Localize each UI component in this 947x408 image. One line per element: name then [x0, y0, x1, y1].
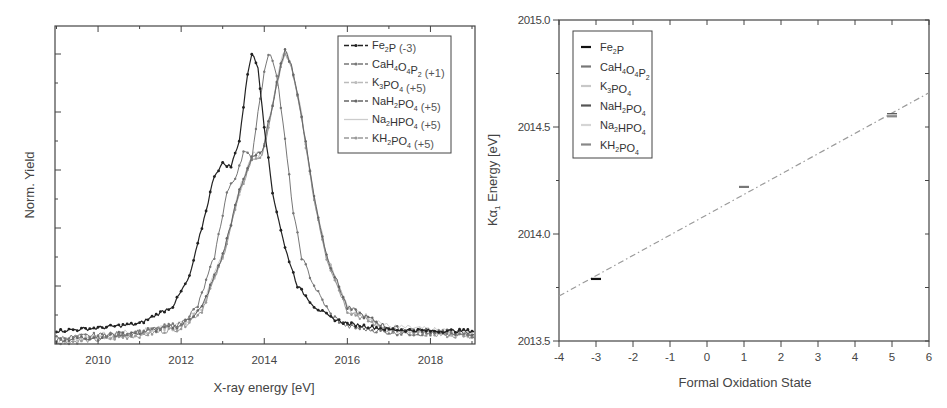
- right-x-tick-label: 5: [889, 351, 895, 363]
- right-y-tick-label: 2014.0: [518, 228, 550, 240]
- right-y-tick-label: 2013.5: [518, 335, 550, 347]
- right-x-tick-label: -1: [665, 351, 675, 363]
- left-y-axis: [55, 54, 61, 315]
- right-chart: -4-3-2-10123456 2013.52014.02014.52015.0…: [485, 14, 932, 390]
- left-x-tick-label: 2016: [335, 354, 361, 366]
- right-y-axis-title: Kα1 Energy [eV]: [485, 134, 502, 226]
- figure: 20102012201420162018 X-ray energy [eV] N…: [0, 0, 947, 408]
- right-x-tick-label: 4: [852, 351, 859, 363]
- right-y-tick-label: 2014.5: [518, 121, 550, 133]
- right-x-tick-label: -3: [591, 351, 601, 363]
- left-x-tick-label: 2010: [85, 354, 111, 366]
- right-x-tick-label: 1: [741, 351, 747, 363]
- right-x-tick-label: -2: [628, 351, 638, 363]
- left-x-tick-label: 2014: [251, 354, 277, 366]
- right-y-tick-label: 2015.0: [518, 14, 550, 26]
- left-x-tick-label: 2018: [418, 354, 444, 366]
- left-x-axis-title: X-ray energy [eV]: [213, 380, 314, 395]
- right-x-tick-label: -4: [554, 351, 565, 363]
- left-x-tick-label: 2012: [168, 354, 194, 366]
- right-x-tick-label: 6: [926, 351, 932, 363]
- left-legend: Fe2P (-3)CaH4O4P2 (+1)K3PO4 (+5)NaH2PO4 …: [338, 36, 451, 153]
- left-chart: 20102012201420162018 X-ray energy [eV] N…: [22, 26, 475, 395]
- left-y-axis-title: Norm. Yield: [22, 151, 37, 218]
- right-x-tick-label: 3: [815, 351, 821, 363]
- right-x-axis-title: Formal Oxidation State: [679, 375, 812, 390]
- right-x-tick-label: 2: [778, 351, 784, 363]
- right-legend: Fe2PCaH4O4P2K3PO4NaH2PO4Na2HPO4KH2PO4: [573, 31, 652, 158]
- right-x-tick-label: 0: [704, 351, 710, 363]
